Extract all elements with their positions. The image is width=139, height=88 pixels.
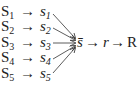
converging-arrows [53, 14, 75, 73]
lower-s-5: s5 [40, 65, 51, 83]
row-arrow-1: → [20, 3, 35, 19]
arrow-to-R: → [110, 34, 125, 50]
arrow-5-to-aggregate [53, 48, 75, 73]
row-arrow-2: → [20, 18, 35, 34]
row-arrow-5: → [20, 65, 35, 81]
R-node: R [127, 34, 137, 50]
aggregate-s-bar: s̄ [77, 34, 83, 50]
r-node: r [103, 34, 109, 50]
upper-s-5: S5 [1, 65, 14, 83]
arrow-4-to-aggregate [53, 46, 75, 59]
row-arrow-4: → [20, 49, 35, 65]
aggregation-diagram: S1 → s1 S2 → s2 S3 → s3 S4 → s4 S5 → s5 … [0, 0, 139, 88]
row-arrow-3: → [20, 34, 35, 50]
arrow-to-r: → [85, 34, 100, 50]
row-5: S5 → s5 [1, 65, 51, 83]
